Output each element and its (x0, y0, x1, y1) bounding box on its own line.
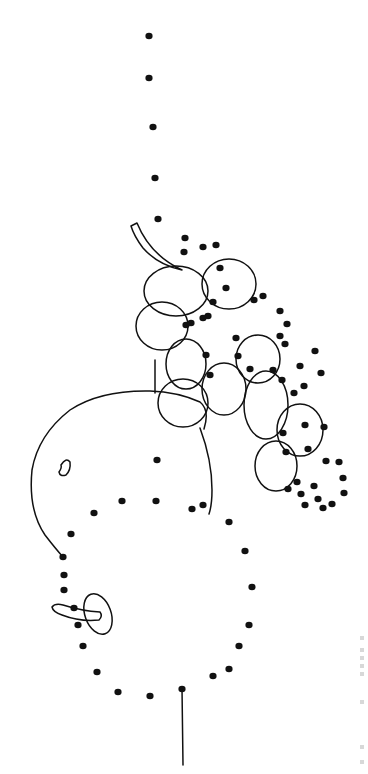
dot-point (281, 341, 288, 347)
leaf-oval (79, 590, 118, 638)
dot-point (74, 622, 81, 628)
dot-point (317, 370, 324, 376)
dot-point (60, 587, 67, 593)
dot-point (314, 496, 321, 502)
dot-point (340, 490, 347, 496)
dot-point (154, 216, 161, 222)
coloring-page-drawing (0, 0, 368, 774)
caption-glyph (360, 672, 364, 676)
dot-point (225, 519, 232, 525)
dot-point (250, 297, 257, 303)
dot-point (151, 175, 158, 181)
dot-point (297, 491, 304, 497)
dot-point (209, 299, 216, 305)
dot-point (225, 666, 232, 672)
dot-point (301, 422, 308, 428)
caption-glyph (360, 664, 364, 668)
dot-point (328, 501, 335, 507)
caption-glyph (360, 656, 364, 660)
connect-the-dots (59, 33, 347, 699)
caption-glyph (360, 760, 364, 764)
dot-point (216, 265, 223, 271)
dot-point (199, 502, 206, 508)
grape-outline (136, 302, 188, 350)
dot-point (241, 548, 248, 554)
dot-point (67, 531, 74, 537)
dot-point (319, 505, 326, 511)
dot-point (188, 506, 195, 512)
dot-point (246, 366, 253, 372)
fruit-stem (182, 688, 183, 765)
dot-point (276, 308, 283, 314)
dot-point (245, 622, 252, 628)
dot-point (322, 458, 329, 464)
dot-point (311, 348, 318, 354)
dot-point (153, 457, 160, 463)
dot-point (304, 446, 311, 452)
dot-point (296, 363, 303, 369)
dot-point (199, 315, 206, 321)
dot-point (222, 285, 229, 291)
fruit-outline-right (200, 428, 212, 514)
dot-point (279, 430, 286, 436)
dot-point (145, 33, 152, 39)
dot-point (199, 244, 206, 250)
dot-point (212, 242, 219, 248)
dot-point (59, 554, 66, 560)
dot-point (300, 383, 307, 389)
caption-glyph (360, 700, 364, 704)
page-caption-rotated (358, 630, 366, 770)
dot-point (301, 502, 308, 508)
dot-point (320, 424, 327, 430)
dot-point (276, 333, 283, 339)
dot-point (278, 377, 285, 383)
dot-point (282, 449, 289, 455)
dot-point (232, 335, 239, 341)
line-art (31, 223, 323, 765)
dot-point (269, 367, 276, 373)
dot-point (145, 75, 152, 81)
dot-point (118, 498, 125, 504)
dot-point (235, 643, 242, 649)
dot-point (149, 124, 156, 130)
dot-point (93, 669, 100, 675)
dot-point (335, 459, 342, 465)
dot-point (209, 673, 216, 679)
dot-point (202, 352, 209, 358)
dot-point (178, 686, 185, 692)
caption-glyph (360, 745, 364, 749)
dot-point (206, 372, 213, 378)
caption-glyph (360, 636, 364, 640)
dot-point (339, 475, 346, 481)
grape-outline (236, 335, 280, 383)
dot-point (293, 479, 300, 485)
dot-point (114, 689, 121, 695)
dot-point (248, 584, 255, 590)
dot-point (290, 390, 297, 396)
dot-point (234, 353, 241, 359)
grape-stem (131, 223, 182, 270)
dot-point (60, 572, 67, 578)
dot-point (182, 322, 189, 328)
dot-point (152, 498, 159, 504)
caption-glyph (360, 648, 364, 652)
grape-outline (144, 266, 208, 316)
grape-outline (255, 441, 297, 491)
dot-point (284, 486, 291, 492)
dot-point (70, 605, 77, 611)
dot-point (79, 643, 86, 649)
dot-point (90, 510, 97, 516)
fruit-outline (31, 391, 206, 557)
fruit-highlight (59, 460, 70, 475)
dot-point (146, 693, 153, 699)
dot-point (180, 249, 187, 255)
dot-point (283, 321, 290, 327)
dot-point (181, 235, 188, 241)
dot-point (259, 293, 266, 299)
dot-point (310, 483, 317, 489)
